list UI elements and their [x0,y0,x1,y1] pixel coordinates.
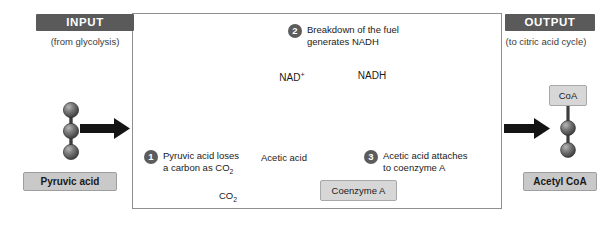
pyruvic-acid-molecule-icon [63,102,78,159]
step-2-line2: generates NADH [307,36,399,48]
input-sublabel: (from glycolysis) [26,36,144,48]
step-3-line2: to coenzyme A [383,162,468,174]
step-2-badge: 2 [288,24,302,38]
step-3-badge: 3 [364,150,378,164]
output-banner: OUTPUT [505,14,595,31]
coa-label-box: CoA [549,85,587,106]
input-arrow-icon [80,118,130,139]
step-2-annotation: 2 Breakdown of the fuel generates NADH [288,24,399,48]
nad-plus-label: NAD+ [272,70,312,83]
step-3-annotation: 3 Acetic acid attaches to coenzyme A [364,150,468,174]
nadh-label: NADH [352,70,392,81]
pyruvic-acid-label: Pyruvic acid [23,172,117,191]
co2-caption: CO2 [208,190,248,206]
acetyl-coa-label: Acetyl CoA [523,172,597,191]
coenzyme-a-box: Coenzyme A [320,180,397,201]
step-2-line1: Breakdown of the fuel [307,24,399,36]
step-1-annotation: 1 Pyruvic acid loses a carbon as CO2 [144,150,239,178]
output-sublabel: (to citric acid cycle) [487,36,605,48]
step-3-line1: Acetic acid attaches [383,150,468,162]
step-1-line1: Pyruvic acid loses [163,150,239,162]
output-arrow-icon [504,118,550,139]
step-1-badge: 1 [144,150,158,164]
acetic-acid-caption: Acetic acid [254,152,314,164]
acetyl-coa-molecule-icon [561,106,576,157]
diagram-canvas: INPUT (from glycolysis) Pyruvic acid OUT… [0,0,605,229]
step-1-line2: a carbon as CO2 [163,162,239,178]
input-banner: INPUT [36,14,134,31]
